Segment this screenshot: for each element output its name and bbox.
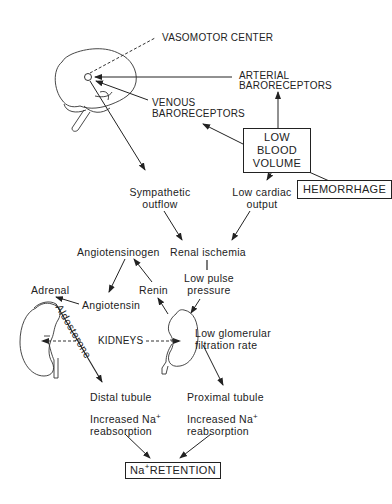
na-plus-superscript: + [156, 412, 161, 421]
label-increased-na-right-line2: reabsorption [187, 425, 258, 437]
kidney-right-icon [162, 310, 198, 374]
label-vasomotor-center: VASOMOTOR CENTER [162, 32, 273, 44]
label-increased-na-right-line1: Increased Na [187, 413, 253, 425]
label-increased-na-right: Increased Na+ reabsorption [187, 413, 258, 437]
label-angiotensinogen: Angiotensinogen [77, 246, 160, 258]
label-increased-na-left-line1: Increased Na [90, 413, 156, 425]
na-retention-suffix: RETENTION [150, 464, 216, 476]
label-distal-tubule: Distal tubule [90, 391, 152, 403]
label-kidneys: KIDNEYS [98, 335, 143, 347]
na-retention-prefix: Na [130, 464, 145, 476]
label-low-gfr-line2: filtration rate [195, 339, 271, 351]
renin-angiotensin-diagram: VASOMOTOR CENTER ARTERIAL BARORECEPTORS … [0, 0, 392, 504]
label-proximal-tubule: Proximal tubule [187, 391, 264, 403]
box-hemorrhage: HEMORRHAGE [297, 180, 392, 199]
label-venous-baroreceptors-line2: BARORECEPTORS [152, 108, 245, 120]
na-plus-superscript: + [253, 412, 258, 421]
label-arterial-baroreceptors-line2: BARORECEPTORS [239, 80, 332, 92]
label-low-gfr: Low glomerular filtration rate [195, 327, 271, 351]
label-low-pulse-line2: pressure [178, 284, 240, 296]
label-low-pulse-line1: Low pulse [178, 272, 240, 284]
vasomotor-node-icon [85, 74, 92, 81]
kidney-left-icon [20, 302, 60, 378]
label-low-gfr-line1: Low glomerular [195, 327, 271, 339]
label-increased-na-left: Increased Na+ reabsorption [90, 413, 161, 437]
label-low-cardiac-output: Low cardiac output [224, 186, 300, 210]
label-renin: Renin [139, 284, 168, 296]
label-adrenal: Adrenal [31, 284, 69, 296]
label-sympathetic-line1: Sympathetic [120, 186, 200, 198]
box-low-blood-volume: LOW BLOOD VOLUME [243, 128, 311, 173]
label-increased-na-left-line2: reabsorption [90, 425, 161, 437]
label-low-pulse-pressure: Low pulse pressure [178, 272, 240, 296]
label-renal-ischemia: Renal ischemia [170, 246, 246, 258]
label-low-blood-volume-line1: LOW BLOOD [248, 131, 306, 157]
label-low-blood-volume-line2: VOLUME [248, 157, 306, 170]
box-na-retention: Na+RETENTION [125, 462, 221, 479]
label-low-cardiac-line2: output [224, 198, 300, 210]
label-sympathetic-outflow: Sympathetic outflow [120, 186, 200, 210]
label-low-cardiac-line1: Low cardiac [224, 186, 300, 198]
label-angiotensin: Angiotensin [82, 299, 140, 311]
label-sympathetic-line2: outflow [120, 198, 200, 210]
